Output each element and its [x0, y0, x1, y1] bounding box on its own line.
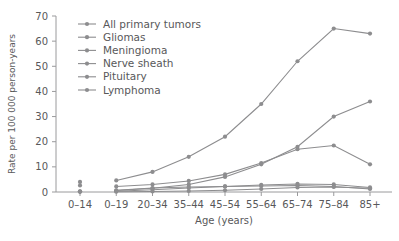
legend-swatch-marker [85, 88, 89, 92]
legend-swatch-marker [85, 48, 89, 52]
data-point [150, 170, 154, 174]
x-tick-label: 20–34 [137, 199, 167, 210]
chart-legend: All primary tumorsGliomasMeningiomaNerve… [78, 18, 201, 96]
data-point [78, 190, 82, 194]
x-tick-label: 55–64 [246, 199, 276, 210]
y-tick-label: 30 [35, 111, 48, 122]
legend-swatch-marker [85, 35, 89, 39]
data-point [368, 186, 372, 190]
data-point [332, 143, 336, 147]
y-axis-label: Rate per 100 000 person-years [7, 34, 17, 174]
data-point [114, 190, 118, 194]
data-point [259, 187, 263, 191]
y-tick-label: 40 [35, 86, 48, 97]
rate-by-age-line-chart: Rate per 100 000 person-years 0102030405… [0, 0, 399, 241]
x-tick-label: 75–84 [319, 199, 349, 210]
y-axis-ticks: 010203040506070 [35, 11, 56, 198]
data-point [223, 135, 227, 139]
legend-swatch-marker [85, 22, 89, 26]
legend-item-label: Lymphoma [103, 84, 161, 96]
data-point [295, 59, 299, 63]
y-tick-label: 0 [42, 187, 48, 198]
data-point [368, 162, 372, 166]
data-point [295, 145, 299, 149]
legend-swatch-marker [85, 75, 89, 79]
y-tick-label: 70 [35, 11, 48, 22]
legend-item-label: Meningioma [103, 44, 167, 56]
y-tick-label: 20 [35, 136, 48, 147]
x-axis-ticks: 0–140–1920–3435–4445–5455–6465–7475–8485… [68, 192, 381, 210]
series-line [116, 145, 370, 186]
data-point [332, 185, 336, 189]
data-point [114, 178, 118, 182]
y-tick-label: 60 [35, 36, 48, 47]
x-tick-label: 85+ [359, 199, 380, 210]
x-tick-label: 45–54 [210, 199, 240, 210]
y-tick-label: 50 [35, 61, 48, 72]
data-point [368, 99, 372, 103]
legend-item-label: All primary tumors [103, 18, 201, 30]
data-point [187, 189, 191, 193]
data-point [150, 189, 154, 193]
figure: Rate per 100 000 person-years 0102030405… [0, 0, 399, 241]
data-point [114, 184, 118, 188]
data-point [295, 185, 299, 189]
x-tick-label: 0–19 [104, 199, 128, 210]
x-axis-label: Age (years) [195, 215, 253, 226]
data-point [332, 26, 336, 30]
series-gliomas [78, 143, 372, 188]
data-point [78, 183, 82, 187]
data-point [259, 162, 263, 166]
data-point [223, 188, 227, 192]
data-point [368, 31, 372, 35]
legend-swatch-marker [85, 62, 89, 66]
data-point [187, 155, 191, 159]
data-point [259, 102, 263, 106]
y-tick-label: 10 [35, 161, 48, 172]
legend-item-label: Gliomas [103, 31, 146, 43]
data-point [223, 175, 227, 179]
x-tick-label: 35–44 [174, 199, 204, 210]
data-point [223, 184, 227, 188]
data-point [187, 185, 191, 189]
x-tick-label: 0–14 [68, 199, 92, 210]
legend-item-label: Pituitary [103, 70, 147, 82]
x-tick-label: 65–74 [282, 199, 312, 210]
data-point [332, 114, 336, 118]
legend-item-label: Nerve sheath [103, 57, 173, 69]
